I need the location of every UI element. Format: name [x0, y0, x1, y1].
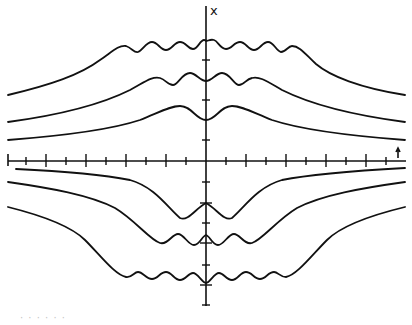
caption-text: · · · · · ·	[20, 312, 66, 323]
trajectory-diagram	[0, 0, 412, 325]
t-axis-arrow-icon	[396, 148, 400, 158]
x-axis-label: x	[210, 4, 218, 17]
